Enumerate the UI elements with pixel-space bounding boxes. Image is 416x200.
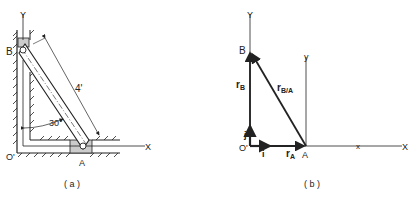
vector-r-ba bbox=[252, 54, 306, 146]
r-b-label: rB bbox=[236, 79, 245, 91]
panel-a: Y B O' A X 4' 30° ( a ) bbox=[6, 10, 151, 189]
floor-hatch bbox=[18, 153, 118, 157]
inner-wall-hatch bbox=[30, 72, 34, 132]
point-a-label-b: A bbox=[302, 150, 308, 160]
y-axis-label-a: Y bbox=[20, 10, 26, 20]
origin-label-a: O' bbox=[6, 152, 15, 162]
caption-a: ( a ) bbox=[64, 179, 80, 189]
point-b-label-a: B bbox=[6, 46, 13, 57]
caption-b: ( b ) bbox=[304, 179, 320, 189]
pin-b bbox=[20, 47, 26, 53]
bar-centerline bbox=[22, 49, 86, 144]
unit-j-label: j bbox=[243, 130, 247, 140]
panel-b: Y B y rB rB/A j i O' rA A x X ( b ) bbox=[236, 10, 408, 189]
diagram-canvas: Y B O' A X 4' 30° ( a ) Y B y rB rB/A j … bbox=[0, 0, 416, 200]
x-axis-label-a: X bbox=[145, 142, 151, 152]
point-a-label-a: A bbox=[79, 158, 85, 168]
angle-label: 30° bbox=[49, 118, 63, 128]
local-x-label: x bbox=[356, 142, 360, 151]
r-ba-label: rB/A bbox=[277, 82, 293, 94]
unit-i-label: i bbox=[262, 149, 265, 159]
top-hatch bbox=[13, 30, 34, 36]
origin-label-b: O' bbox=[239, 143, 248, 153]
X-axis-label-b: X bbox=[402, 142, 408, 152]
dim-ext-top bbox=[33, 38, 45, 44]
Y-axis-label-b: Y bbox=[247, 10, 253, 20]
local-y-label: y bbox=[304, 52, 309, 62]
length-label: 4' bbox=[75, 83, 83, 94]
point-b-label-b: B bbox=[239, 45, 246, 56]
pin-a bbox=[80, 143, 86, 149]
r-a-label: rA bbox=[286, 148, 295, 160]
